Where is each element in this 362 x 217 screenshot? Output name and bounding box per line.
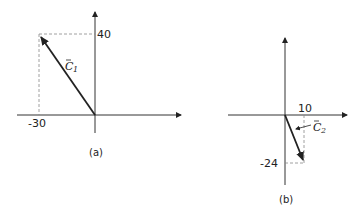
x-tick-label-neg30: -30 — [28, 117, 46, 130]
panel-a: 40 -30 C 1 (a) — [17, 12, 181, 158]
svg-text:2: 2 — [320, 126, 326, 135]
y-tick-label-40: 40 — [97, 28, 111, 41]
vector-c1-arrow — [41, 37, 95, 115]
vector-c1-label: C 1 — [65, 60, 78, 74]
svg-text:1: 1 — [73, 65, 78, 74]
y-tick-label-neg24: -24 — [260, 157, 278, 170]
caption-a: (a) — [89, 147, 103, 158]
panel-b: 10 -24 C 2 (b) — [228, 38, 347, 205]
x-tick-label-10: 10 — [298, 102, 312, 115]
leader-arrow — [296, 125, 311, 129]
vector-c2-arrow — [285, 115, 303, 160]
caption-b: (b) — [279, 194, 293, 205]
vector-c2-label: C 2 — [313, 121, 326, 135]
vector-diagram: 40 -30 C 1 (a) 10 -24 C 2 (b) — [0, 0, 362, 217]
